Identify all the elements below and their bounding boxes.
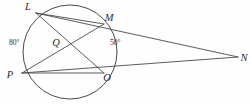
- secant-p-n: [22, 57, 238, 73]
- main-circle: [23, 5, 117, 99]
- angle-measure-50: 50°: [110, 38, 121, 47]
- vertex-label-m: M: [104, 12, 115, 23]
- vertex-label-o: O: [103, 72, 111, 83]
- vertex-label-l: L: [24, 1, 31, 12]
- secant-l-n: [36, 13, 238, 57]
- chord-p-m: [22, 24, 104, 73]
- vertex-label-n: N: [239, 52, 248, 63]
- geometry-figure: L M Q P O N 80° 50°: [0, 0, 251, 104]
- vertex-label-p: P: [6, 69, 14, 80]
- vertex-label-q: Q: [52, 37, 60, 48]
- geometry-canvas: L M Q P O N 80° 50°: [0, 0, 251, 104]
- arc-measure-80: 80°: [9, 38, 20, 47]
